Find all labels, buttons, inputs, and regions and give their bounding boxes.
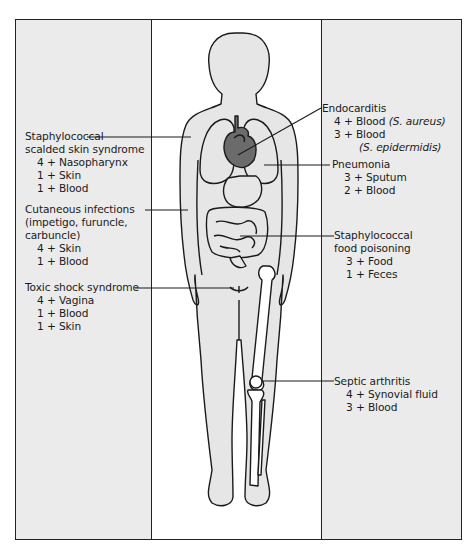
- label-septic-arthritis: Septic arthritis 4 + Synovial fluid 3 + …: [334, 375, 438, 414]
- culture-site: 3 + Sputum: [332, 171, 407, 184]
- disease-title: Staphylococcal: [25, 130, 144, 143]
- culture-site: 4 + Skin: [25, 242, 135, 255]
- stomach: [224, 176, 262, 207]
- culture-site: 1 + Skin: [25, 320, 139, 333]
- disease-title: food poisoning: [334, 242, 413, 255]
- culture-site: 1 + Feces: [334, 268, 413, 281]
- culture-site: 3 + Blood: [334, 401, 438, 414]
- culture-site: 4 + Vagina: [25, 294, 139, 307]
- culture-site: 4 + Blood: [334, 115, 385, 127]
- culture-site: 4 + Nasopharynx: [25, 156, 144, 169]
- patella: [250, 376, 262, 388]
- label-pneumonia: Pneumonia 3 + Sputum 2 + Blood: [332, 158, 407, 197]
- culture-site: 2 + Blood: [332, 184, 407, 197]
- disease-subtitle: carbuncle): [25, 229, 135, 242]
- culture-site: 1 + Skin: [25, 169, 144, 182]
- culture-site: 3 + Food: [334, 255, 413, 268]
- disease-title: Septic arthritis: [334, 375, 438, 388]
- disease-title: Cutaneous infections: [25, 203, 135, 216]
- organism: (S. aureus): [389, 115, 446, 127]
- culture-site: 3 + Blood: [322, 128, 446, 141]
- disease-subtitle: (impetigo, furuncle,: [25, 216, 135, 229]
- body-silhouette: [180, 33, 298, 506]
- disease-title: Pneumonia: [332, 158, 407, 171]
- disease-title: Endocarditis: [322, 102, 446, 115]
- disease-title: Staphylococcal: [334, 229, 413, 242]
- culture-site: 1 + Blood: [25, 182, 144, 195]
- culture-site: 4 + Synovial fluid: [334, 388, 438, 401]
- organism: (S. epidermidis): [359, 141, 441, 153]
- label-toxic-shock-syndrome: Toxic shock syndrome 4 + Vagina 1 + Bloo…: [25, 281, 139, 333]
- culture-site: 1 + Blood: [25, 255, 135, 268]
- culture-site: 1 + Blood: [25, 307, 139, 320]
- label-endocarditis: Endocarditis 4 + Blood (S. aureus) 3 + B…: [322, 102, 446, 154]
- label-scalded-skin-syndrome: Staphylococcal scalded skin syndrome 4 +…: [25, 130, 144, 195]
- disease-title: scalded skin syndrome: [25, 143, 144, 156]
- label-food-poisoning: Staphylococcal food poisoning 3 + Food 1…: [334, 229, 413, 281]
- disease-title: Toxic shock syndrome: [25, 281, 139, 294]
- label-cutaneous-infections: Cutaneous infections (impetigo, furuncle…: [25, 203, 135, 268]
